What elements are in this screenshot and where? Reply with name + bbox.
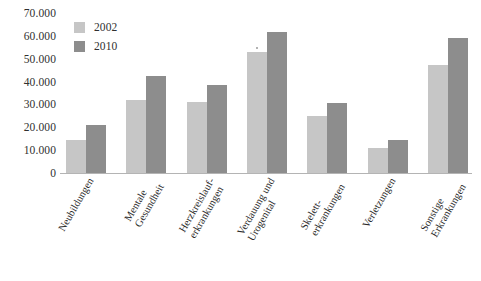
y-axis-tick-label: 60.000: [24, 31, 56, 43]
y-axis-tick-label: 70.000: [24, 8, 56, 20]
y-axis-tick-label: 10.000: [24, 145, 56, 157]
bar-2002[interactable]: [66, 140, 86, 174]
y-axis-tick-label: 20.000: [24, 123, 56, 135]
bar-2002[interactable]: [187, 102, 207, 174]
x-axis-label-line: Verletzungen: [360, 176, 398, 230]
bar-2002[interactable]: [368, 148, 388, 174]
bar-chart: 70.00060.00050.00040.00030.00020.00010.0…: [0, 0, 481, 281]
bar-2002[interactable]: [247, 52, 267, 174]
y-axis-tick-label: 40.000: [24, 77, 56, 89]
bar-2002[interactable]: [126, 100, 146, 174]
y-axis-tick-label: 50.000: [24, 54, 56, 66]
x-axis-label-line: Neubildungen: [56, 176, 96, 233]
y-axis-tick-label: 0: [50, 168, 56, 180]
y-axis: 70.00060.00050.00040.00030.00020.00010.0…: [0, 0, 60, 281]
x-axis-line: [60, 173, 472, 174]
bar-2002[interactable]: [428, 65, 448, 174]
y-axis-tick-label: 30.000: [24, 100, 56, 112]
x-axis-category-labels: NeubildungenMentaleGesundheitHerzkreisla…: [60, 176, 472, 281]
